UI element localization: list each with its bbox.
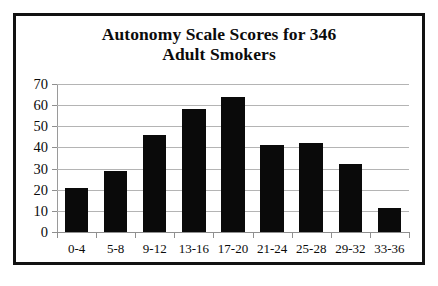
y-tick-mark [52, 169, 57, 170]
x-tick-mark [57, 233, 58, 238]
gridline [57, 84, 409, 85]
bar [143, 135, 166, 232]
y-tick-label: 10 [34, 204, 49, 219]
y-tick-mark [52, 147, 57, 148]
y-tick-mark [52, 105, 57, 106]
y-tick-mark [52, 84, 57, 85]
x-tick-label: 29-32 [335, 242, 365, 256]
x-tick-mark [253, 233, 254, 238]
plot-wrapper: 010203040506070 0-45-89-1213-1617-2021-2… [16, 16, 422, 262]
y-tick-label: 20 [34, 182, 49, 197]
bar [260, 145, 283, 232]
y-tick-mark [52, 190, 57, 191]
y-tick-label: 0 [41, 225, 48, 240]
x-tick-mark [409, 233, 410, 238]
y-tick-mark [52, 211, 57, 212]
x-tick-label: 25-28 [296, 242, 326, 256]
x-tick-mark [96, 233, 97, 238]
y-tick-label: 50 [34, 119, 49, 134]
y-tick-label: 40 [34, 140, 49, 155]
y-tick-mark [52, 126, 57, 127]
x-tick-mark [213, 233, 214, 238]
x-tick-label: 17-20 [218, 242, 248, 256]
bar [221, 97, 244, 232]
bar [104, 171, 127, 232]
x-tick-mark [331, 233, 332, 238]
x-tick-mark [135, 233, 136, 238]
plot-area: 010203040506070 [57, 84, 409, 232]
y-tick-label: 70 [34, 77, 49, 92]
x-tick-label: 9-12 [143, 242, 167, 256]
bar [182, 109, 205, 232]
x-tick-mark [292, 233, 293, 238]
x-tick-mark [174, 233, 175, 238]
gridline [57, 232, 409, 233]
bar [65, 188, 88, 232]
x-tick-label: 21-24 [257, 242, 287, 256]
x-tick-mark [370, 233, 371, 238]
bar [378, 208, 401, 232]
bar [339, 164, 362, 232]
y-tick-label: 60 [34, 98, 49, 113]
bar [299, 143, 322, 232]
chart-figure: Autonomy Scale Scores for 346 Adult Smok… [13, 13, 425, 265]
x-tick-label: 33-36 [374, 242, 404, 256]
x-tick-label: 13-16 [179, 242, 209, 256]
x-tick-label: 5-8 [107, 242, 124, 256]
y-tick-label: 30 [34, 161, 49, 176]
x-tick-label: 0-4 [68, 242, 85, 256]
